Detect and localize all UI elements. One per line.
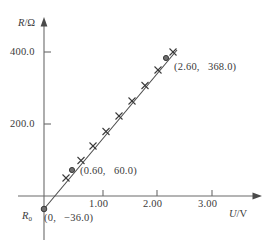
y-axis-title-unit: /Ω	[24, 17, 35, 28]
chart-canvas	[0, 0, 280, 241]
annotation-intercept: (0, −36.0)	[44, 213, 93, 224]
data-marker	[90, 143, 97, 150]
highlight-point-low	[69, 167, 74, 172]
highlight-point-high	[163, 55, 168, 60]
intercept-symbol-label: R0	[22, 211, 32, 222]
y-axis-arrowhead	[41, 17, 48, 27]
x-axis-title-symbol: U	[229, 208, 237, 219]
intercept-point	[41, 206, 47, 212]
data-marker	[78, 157, 85, 164]
x-axis-title: U/V	[229, 209, 247, 220]
x-tick-label-3: 3.00	[198, 199, 217, 210]
x-tick-label-1: 1.00	[89, 199, 108, 210]
annotation-point-low: (0.60, 60.0)	[80, 166, 137, 177]
x-tick-label-2: 2.00	[143, 199, 162, 210]
x-axis-arrowhead	[253, 193, 263, 200]
intercept-symbol-subscript: 0	[28, 215, 32, 223]
chart-figure: R/Ω U/V 400.0 200.0 1.00 2.00 3.00 (0.60…	[0, 0, 280, 241]
data-markers	[63, 49, 177, 182]
y-tick-label-400: 400.0	[10, 47, 35, 58]
fit-line	[44, 50, 177, 209]
annotation-point-high: (2.60, 368.0)	[174, 62, 236, 73]
data-marker	[63, 175, 70, 182]
x-axis-title-unit: /V	[237, 208, 248, 219]
y-axis-title: R/Ω	[18, 18, 35, 29]
y-tick-label-200: 200.0	[10, 119, 35, 130]
